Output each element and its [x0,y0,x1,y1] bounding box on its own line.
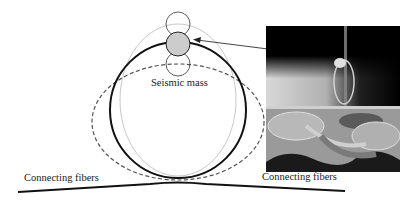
arrow-head-icon [193,37,201,43]
connecting-fiber-line [18,183,345,193]
connecting-fibers-label-right: Connecting fibers [262,171,337,182]
photo-illustration [266,26,400,172]
resonator-photograph [266,26,400,172]
pointer-arrow-line [197,40,268,49]
seismic-mass [166,32,190,56]
connecting-fibers-label-left: Connecting fibers [24,172,99,183]
seismic-mass-label: Seismic mass [151,77,208,88]
solid-ring [110,42,246,178]
